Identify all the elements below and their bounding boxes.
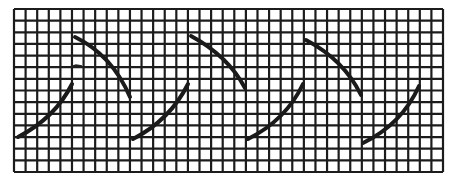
graph-paper-figure [0,0,455,183]
curve-rise-3 [248,84,303,139]
grid-lines [14,9,443,172]
